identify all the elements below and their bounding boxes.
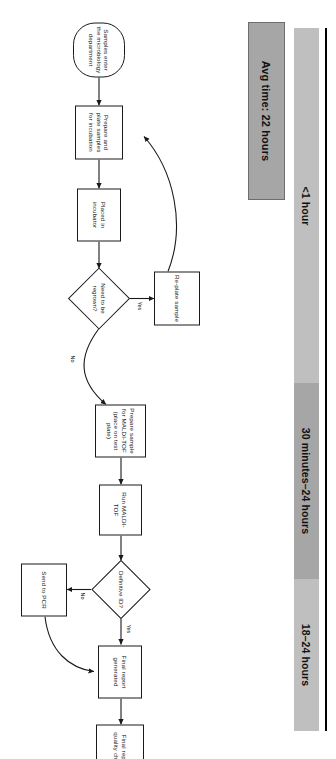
node-replate-sample-label: Re-plate sample — [173, 275, 181, 322]
node-replate-sample[interactable]: Re-plate sample — [154, 271, 200, 325]
diagram-page: Samples enter the microbiology departmen… — [0, 0, 336, 759]
node-final-report-generated[interactable]: Final report generated — [98, 645, 142, 698]
node-final-report-quality-check-label: Final report quality check — [112, 727, 127, 759]
node-start[interactable]: Samples enter the microbiology departmen… — [73, 22, 125, 77]
avg-time-label: Avg time: 22 hours — [261, 61, 273, 162]
timeline-axis-line — [325, 28, 327, 731]
timeline-segment-30min-24hours: 30 minutes–24 hours — [294, 383, 319, 579]
timeline-segment-18-24hours-label: 18–24 hours — [301, 624, 313, 686]
edge-label-regrown-yes: Yes — [137, 301, 142, 310]
node-incubator-label: Placed in incubator — [91, 191, 106, 238]
edge-label-regrown-no: No — [70, 355, 75, 362]
node-prepare-plate[interactable]: Prepare and plate samples for incubation — [75, 105, 123, 159]
timeline-segment-30min-24hours-label: 30 minutes–24 hours — [301, 428, 313, 534]
node-incubator[interactable]: Placed in incubator — [77, 188, 121, 241]
timeline-segment-lt1hour: <1 hour — [294, 28, 319, 383]
node-prepare-plate-label: Prepare and plate samples for incubation — [88, 108, 111, 156]
node-regrown-decision-label: Need to be regrown? — [84, 272, 114, 324]
flowchart-rotated-frame: Samples enter the microbiology departmen… — [0, 0, 230, 759]
node-prepare-maldi[interactable]: Prepare sample for MALDI-TOF (place on t… — [95, 404, 146, 457]
node-start-label: Samples enter the microbiology departmen… — [88, 25, 111, 74]
node-send-to-pcr[interactable]: Send to PCR — [21, 563, 67, 616]
node-run-maldi-label: Run MALDI-TOF — [113, 487, 128, 532]
timeline-segment-lt1hour-label: <1 hour — [301, 186, 313, 225]
timeline-segment-18-24hours: 18–24 hours — [294, 579, 319, 731]
edge-label-definitive-yes: Yes — [126, 624, 131, 633]
avg-time-box: Avg time: 22 hours — [248, 22, 285, 200]
node-run-maldi[interactable]: Run MALDI-TOF — [99, 484, 142, 535]
node-final-report-quality-check[interactable]: Final report quality check — [96, 724, 144, 759]
node-prepare-maldi-label: Prepare sample for MALDI-TOF (place on t… — [105, 407, 135, 454]
node-send-to-pcr-label: Send to PCR — [40, 571, 48, 608]
node-final-report-generated-label: Final report generated — [112, 648, 127, 695]
node-definitive-id-decision-label: Definitive ID? — [107, 563, 135, 615]
flowchart-canvas: Samples enter the microbiology departmen… — [0, 0, 230, 759]
edge-label-definitive-no: No — [80, 592, 85, 599]
